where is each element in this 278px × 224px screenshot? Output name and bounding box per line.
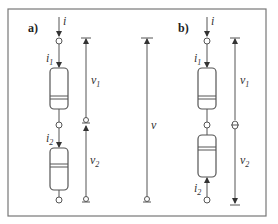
voltage-v2-label: v2 (90, 153, 99, 169)
current-i2-label: i2 (194, 181, 201, 197)
voltage-v-label: v (151, 118, 157, 132)
current-i-label: i (63, 14, 66, 28)
cell-1 (198, 68, 216, 109)
cell-1 (50, 68, 68, 109)
terminal-top (204, 38, 210, 44)
total-voltage: v (141, 38, 157, 202)
terminal-bottom (56, 197, 62, 203)
series-cells-diagram: a) i i1 i2 v1 v (0, 0, 278, 224)
panel-b-label: b) (178, 21, 189, 35)
cell-2 (198, 135, 216, 177)
terminal-middle (56, 122, 62, 128)
current-i-label: i (211, 14, 214, 28)
panel-b: b) i i1 i2 v1 v2 (178, 14, 249, 205)
current-i1-label: i1 (46, 51, 53, 67)
cell-2 (50, 148, 68, 190)
voltage-bottom-marker (145, 197, 150, 202)
terminal-bottom (204, 197, 210, 203)
voltage-v1-label: v1 (91, 73, 100, 89)
voltage-bottom-marker (84, 197, 89, 202)
current-i2-label: i2 (46, 131, 53, 147)
terminal-middle (204, 122, 210, 128)
voltage-v1-label: v1 (240, 73, 249, 89)
panel-a-label: a) (28, 21, 38, 35)
voltage-v2-label: v2 (240, 153, 249, 169)
panel-a: a) i i1 i2 v1 v (28, 14, 100, 203)
terminal-top (56, 38, 62, 44)
current-i1-label: i1 (194, 51, 201, 67)
diagram-frame (8, 9, 266, 216)
voltage-junction-marker (84, 118, 89, 123)
